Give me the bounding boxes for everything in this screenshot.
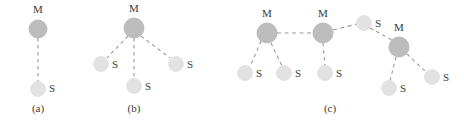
edge-b-m1-s1: [107, 36, 128, 58]
slave-node-label: S: [256, 67, 262, 79]
master-node[interactable]: [124, 18, 144, 38]
slave-node[interactable]: [382, 81, 397, 96]
subfigure-caption-c: (c): [324, 102, 337, 115]
master-slave-topology-figure: M S (a) M S S S (b): [0, 0, 464, 123]
edge-c-m2-s4: [333, 24, 357, 30]
slave-node-label: S: [443, 71, 449, 83]
master-node-label: M: [33, 3, 43, 15]
labels-c: M M M S S S S S S: [256, 7, 449, 94]
nodes-b: [94, 18, 184, 94]
edge-c-m1-s2: [271, 43, 282, 66]
edge-b-m1-s3: [141, 36, 170, 58]
slave-node-label: S: [375, 17, 381, 29]
slave-node[interactable]: [425, 70, 440, 85]
edge-c-m2-s3: [323, 43, 325, 66]
slave-node-label: S: [49, 82, 55, 94]
slave-node-label: S: [400, 82, 406, 94]
master-node-label: M: [394, 21, 404, 33]
edge-c-s4-m3: [370, 28, 392, 40]
topology-canvas: M S (a) M S S S (b): [0, 0, 464, 123]
slave-node[interactable]: [238, 66, 253, 81]
subfigure-caption-a: (a): [32, 102, 45, 115]
slave-node[interactable]: [357, 16, 372, 31]
edge-c-m3-s5: [390, 57, 396, 81]
master-node[interactable]: [313, 23, 333, 43]
slave-node-label: S: [145, 80, 151, 92]
subfigure-caption-b: (b): [128, 102, 141, 115]
slave-node[interactable]: [277, 66, 292, 81]
master-node[interactable]: [29, 20, 47, 38]
slave-node-label: S: [336, 67, 342, 79]
subfigure-c: M M M S S S S S S (c): [238, 7, 450, 115]
edge-c-m1-s1: [250, 41, 261, 67]
slave-node[interactable]: [127, 79, 142, 94]
master-node-label: M: [262, 7, 272, 19]
slave-node-label: S: [112, 58, 118, 70]
nodes-a: [29, 20, 47, 97]
master-node-label: M: [318, 7, 328, 19]
subfigure-b: M S S S (b): [94, 2, 194, 115]
labels-a: M S: [33, 3, 55, 94]
slave-node[interactable]: [169, 57, 184, 72]
master-node[interactable]: [389, 37, 409, 57]
slave-node-label: S: [187, 58, 193, 70]
master-node[interactable]: [257, 23, 277, 43]
slave-node[interactable]: [94, 57, 109, 72]
slave-node-label: S: [295, 67, 301, 79]
labels-b: M S S S: [112, 2, 193, 92]
slave-node[interactable]: [318, 66, 333, 81]
subfigure-a: M S (a): [29, 3, 55, 115]
master-node-label: M: [129, 2, 139, 14]
slave-node[interactable]: [31, 82, 46, 97]
edge-c-m3-s6: [407, 54, 426, 72]
